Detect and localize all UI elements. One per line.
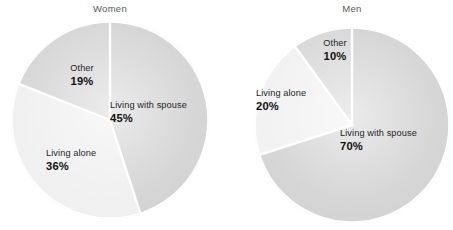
- slice-category: Other: [61, 63, 103, 74]
- slice-percent: 19%: [61, 75, 103, 88]
- pie-women-label-living-alone: Living alone 36%: [46, 148, 96, 173]
- pie-chart-figure: Women: [0, 0, 453, 230]
- pie-men-label-living-alone: Living alone 20%: [256, 88, 306, 113]
- pie-men-label-living-with-spouse: Living with spouse 70%: [340, 128, 417, 153]
- slice-category: Living with spouse: [340, 128, 417, 139]
- slice-category: Living alone: [256, 88, 306, 99]
- slice-category: Living alone: [46, 148, 96, 159]
- slice-percent: 36%: [46, 160, 96, 173]
- chart-panel-men: Men: [227, 0, 453, 230]
- slice-percent: 70%: [340, 140, 417, 153]
- pie-men-label-other: Other 10%: [314, 38, 356, 63]
- slice-percent: 10%: [314, 50, 356, 63]
- slice-percent: 45%: [110, 112, 187, 125]
- chart-panel-women: Women: [0, 0, 226, 230]
- pie-women-label-other: Other 19%: [61, 63, 103, 88]
- pie-men: [227, 0, 453, 230]
- pie-women-label-living-with-spouse: Living with spouse 45%: [110, 100, 187, 125]
- slice-category: Living with spouse: [110, 100, 187, 111]
- slice-category: Other: [314, 38, 356, 49]
- slice-percent: 20%: [256, 100, 306, 113]
